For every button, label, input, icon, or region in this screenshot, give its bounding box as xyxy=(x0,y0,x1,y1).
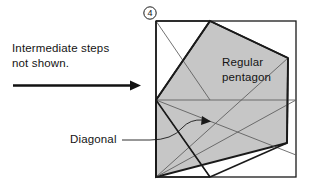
pentagon-label-line-1: Regular xyxy=(222,56,263,68)
step-number-label: 4 xyxy=(147,8,152,18)
pentagon-construction-diagram: 4 xyxy=(0,0,310,187)
step-number-badge: 4 xyxy=(144,7,156,19)
right-arrow-icon xyxy=(13,81,141,91)
figure-panel: Intermediate steps not shown. 4 xyxy=(0,0,310,187)
pentagon-label-line-2: pentagon xyxy=(222,71,271,83)
diagonal-label: Diagonal xyxy=(70,133,117,145)
